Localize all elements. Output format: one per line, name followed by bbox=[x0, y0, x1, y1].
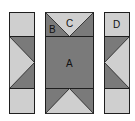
left-bottom-square bbox=[10, 89, 35, 114]
right-strip: D bbox=[105, 13, 130, 114]
quilt-diagram: C B A D bbox=[0, 0, 135, 121]
center-column: C B A bbox=[46, 13, 94, 114]
label-b: B bbox=[49, 24, 56, 35]
right-bottom-square bbox=[105, 89, 130, 114]
left-top-square bbox=[10, 13, 35, 37]
left-strip bbox=[10, 13, 35, 114]
label-c: C bbox=[66, 18, 73, 29]
label-d: D bbox=[113, 19, 120, 30]
label-a: A bbox=[66, 58, 73, 69]
